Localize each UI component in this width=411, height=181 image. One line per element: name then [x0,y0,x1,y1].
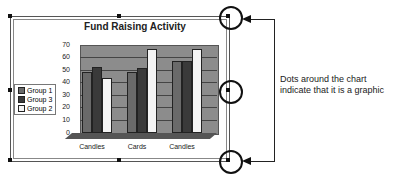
legend-label: Group 2 [27,104,52,113]
legend-swatch [18,96,25,103]
bar [127,72,137,133]
annotation-text: Dots around the chart indicate that it i… [280,74,384,96]
y-tick: 70 [56,41,70,48]
y-tick: 10 [56,116,70,123]
legend-item: Group 2 [18,104,52,113]
arrow-left-icon [242,157,251,165]
x-label: Candles [72,143,112,150]
legend-swatch [18,105,25,112]
plot-area: 70 60 50 40 30 20 10 0 [72,45,217,139]
bar [92,67,102,133]
selection-handle[interactable] [8,88,12,92]
selection-handle[interactable] [8,14,12,18]
y-tick: 20 [56,103,70,110]
annotation-line: indicate that it is a graphic [280,85,384,96]
x-label: Cards [117,143,157,150]
legend-swatch [18,87,25,94]
selection-handle[interactable] [117,14,121,18]
bar [172,61,182,133]
y-tick: 60 [56,53,70,60]
bar [82,72,92,133]
x-label: Candles [162,143,202,150]
y-tick: 50 [56,66,70,73]
y-tick: 40 [56,78,70,85]
bar [147,49,157,133]
legend-item: Group 3 [18,95,52,104]
bar [192,49,202,133]
bar [137,68,147,133]
selection-handle[interactable] [117,158,121,162]
bar [102,78,112,133]
legend-item: Group 1 [18,86,52,95]
plot-floor [65,133,217,139]
y-tick: 30 [56,91,70,98]
y-tick: 0 [56,129,70,136]
bar [182,61,192,133]
callout-line [248,161,274,162]
highlight-circle-icon [219,80,243,104]
chart-title: Fund Raising Activity [60,21,210,32]
callout-line [248,19,274,20]
chart-legend[interactable]: Group 1 Group 3 Group 2 [14,84,56,115]
annotation-line: Dots around the chart [280,74,384,85]
highlight-circle-icon [219,6,243,30]
callout-line [274,19,275,162]
legend-label: Group 3 [27,95,52,104]
legend-label: Group 1 [27,86,52,95]
arrow-left-icon [242,15,251,23]
selection-handle[interactable] [8,158,12,162]
highlight-circle-icon [219,150,243,174]
